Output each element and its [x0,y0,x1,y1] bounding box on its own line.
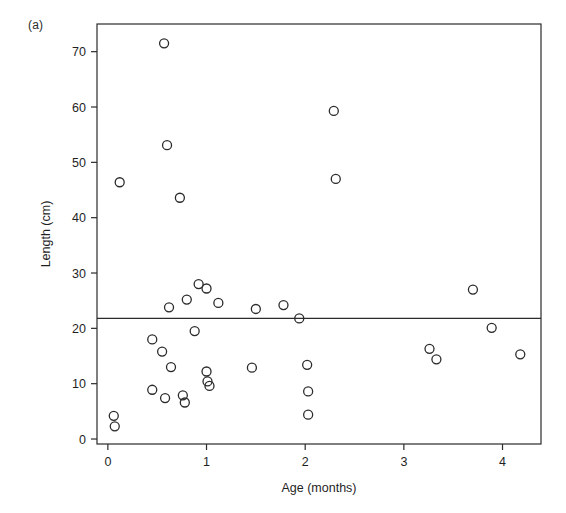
data-point [167,363,176,372]
x-axis-tick-label: 1 [203,455,210,469]
x-axis-tick-label: 4 [499,455,506,469]
data-point [331,174,340,183]
data-point [165,303,174,312]
data-point [110,422,119,431]
data-point [329,106,338,115]
data-point [182,295,191,304]
plot-frame [97,24,541,444]
data-point [247,363,256,372]
data-point [148,385,157,394]
figure-panel: (a) 01234010203040506070Age (months)Leng… [0,0,566,513]
data-point [158,347,167,356]
y-axis-tick-label: 70 [72,45,86,59]
data-point [432,355,441,364]
y-axis-tick-label: 60 [72,101,86,115]
y-axis-tick-label: 30 [72,267,86,281]
data-point [304,410,313,419]
x-axis-tick-label: 0 [104,455,111,469]
panel-label: (a) [28,18,43,32]
data-point [163,141,172,150]
data-point [202,367,211,376]
y-axis-tick-label: 40 [72,211,86,225]
data-point [214,298,223,307]
data-point [148,335,157,344]
data-point [161,394,170,403]
data-point [304,387,313,396]
x-axis-tick-label: 3 [400,455,407,469]
data-point [251,304,260,313]
x-axis-title: Age (months) [281,481,356,495]
data-point [425,344,434,353]
data-point [279,301,288,310]
data-point [468,285,477,294]
data-point [175,193,184,202]
scatter-plot-canvas: 01234010203040506070Age (months)Length (… [0,0,566,513]
x-axis-tick-label: 2 [302,455,309,469]
data-point [160,39,169,48]
y-axis-tick-label: 0 [79,433,86,447]
y-axis-tick-label: 50 [72,156,86,170]
data-point [516,350,525,359]
data-point [202,284,211,293]
data-point [115,178,124,187]
y-axis-title: Length (cm) [39,201,53,268]
data-point [190,327,199,336]
data-point [109,411,118,420]
y-axis-tick-label: 10 [72,377,86,391]
data-point [487,323,496,332]
data-point [303,360,312,369]
y-axis-tick-label: 20 [72,322,86,336]
